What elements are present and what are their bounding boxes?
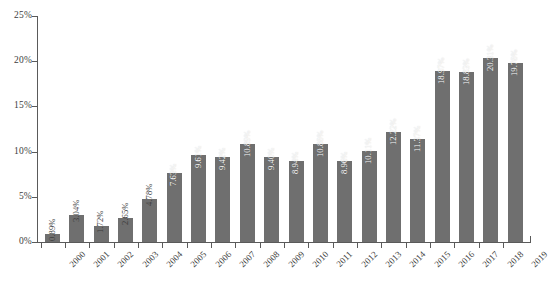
bar-value-label: 1.72% — [95, 211, 105, 233]
bar[interactable] — [410, 139, 425, 242]
bar[interactable] — [362, 151, 377, 242]
x-axis-category-label: 2005 — [189, 249, 209, 269]
bar-value-label: 0.89% — [47, 218, 57, 240]
bar-value-label: 9.42% — [217, 147, 227, 169]
x-axis-category-label: 2006 — [213, 249, 233, 269]
x-axis-category-label: 2008 — [262, 249, 282, 269]
x-axis-category-label: 2001 — [91, 249, 111, 269]
bar[interactable] — [459, 72, 474, 242]
bar[interactable] — [386, 132, 401, 242]
bar-value-label: 9.40% — [266, 148, 276, 170]
x-axis-category-label: 2015 — [432, 249, 452, 269]
bar-value-label: 18.97% — [436, 57, 446, 84]
x-axis-category-label: 2019 — [530, 249, 550, 269]
x-axis-category-label: 2003 — [140, 249, 160, 269]
x-axis-category-label: 2018 — [505, 249, 525, 269]
x-axis-category-label: 2010 — [310, 249, 330, 269]
bar[interactable] — [508, 63, 523, 242]
bar-value-label: 8.94% — [290, 152, 300, 174]
bar[interactable] — [313, 144, 328, 242]
bar-value-label: 11.37% — [412, 126, 422, 153]
bar-value-label: 3.04% — [71, 199, 81, 221]
x-axis-category-label: 2016 — [456, 249, 476, 269]
x-axis-category-label: 2017 — [481, 249, 501, 269]
x-axis-category-label: 2011 — [335, 249, 355, 269]
bar-value-label: 19.78% — [509, 49, 519, 76]
bar-value-label: 8.96% — [339, 152, 349, 174]
bar-value-label: 18.83% — [461, 58, 471, 85]
x-axis-category-label: 2014 — [408, 249, 428, 269]
x-axis-category-label: 2012 — [359, 249, 379, 269]
bar-value-label: 4.78% — [144, 183, 154, 205]
x-axis-category-label: 2007 — [237, 249, 257, 269]
x-axis-category-label: 2009 — [286, 249, 306, 269]
bar-value-label: 2.65% — [120, 203, 130, 225]
bar-value-label: 9.61% — [193, 146, 203, 168]
bar[interactable] — [191, 155, 206, 242]
bar[interactable] — [483, 58, 498, 242]
x-axis-category-label: 2013 — [383, 249, 403, 269]
bar[interactable] — [240, 144, 255, 242]
x-axis-category-label: 2004 — [164, 249, 184, 269]
bar-value-label: 10.89% — [242, 130, 252, 157]
bar-value-label: 10.88% — [315, 130, 325, 157]
x-axis-category-label: 2002 — [116, 249, 136, 269]
x-axis-category-label: 2000 — [67, 249, 87, 269]
bar-value-label: 12.22% — [388, 118, 398, 145]
bar-value-label: 20.31% — [485, 45, 495, 72]
bar-value-label: 7.63% — [168, 164, 178, 186]
bar[interactable] — [435, 71, 450, 242]
bar-value-label: 10.11% — [363, 137, 373, 164]
